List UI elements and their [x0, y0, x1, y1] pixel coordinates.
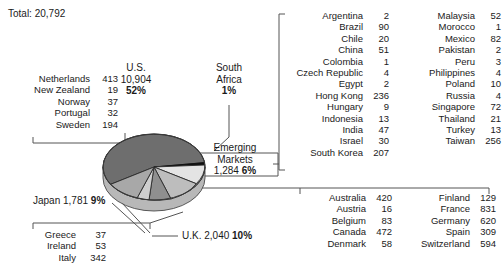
table-row: China51Pakistan2: [287, 44, 503, 55]
page-title: Total: 20,792: [8, 8, 65, 19]
cell-value: 4: [477, 90, 503, 101]
list-southern-europe-body: Greece37Ireland53Italy342: [22, 229, 108, 263]
cell-country: Denmark: [302, 238, 368, 249]
cell-value: 4: [365, 67, 399, 78]
table-row: Indonesia13Thailand21: [287, 113, 503, 124]
cell-value: 194: [92, 119, 120, 130]
cell-country: Brazil: [287, 21, 365, 32]
cell-value: 4: [477, 67, 503, 78]
cell-country: South Korea: [287, 147, 365, 158]
pie-chart: [103, 134, 205, 211]
cell-value: 37: [92, 96, 120, 107]
cell-value: 58: [368, 238, 406, 249]
callout-japan: Japan 1,781 9%: [33, 195, 105, 206]
cell-value: 2: [477, 44, 503, 55]
cell-value: 52: [477, 10, 503, 21]
table-row: Argentina2Malaysia52: [287, 10, 503, 21]
cell-country: Switzerland: [406, 238, 472, 249]
table-row: Ireland53: [22, 240, 108, 251]
cell-country: India: [287, 124, 365, 135]
table-developed-markets: Australia420Finland129Austria16France831…: [302, 192, 498, 249]
cell-country: Philippines: [399, 67, 477, 78]
cell-value: 309: [472, 226, 498, 237]
cell-country: Thailand: [399, 113, 477, 124]
cell-country: Israel: [287, 135, 365, 146]
cell-country: New Zealand: [12, 84, 92, 95]
list-southern-europe: Greece37Ireland53Italy342: [22, 229, 108, 263]
cell-country: Australia: [302, 192, 368, 203]
table-row: Italy342: [22, 252, 108, 263]
cell-value: 420: [368, 192, 406, 203]
cell-value: 13: [477, 124, 503, 135]
cell-value: 82: [477, 33, 503, 44]
cell-country: Canada: [302, 226, 368, 237]
cell-country: Finland: [406, 192, 472, 203]
cell-country: Chile: [287, 33, 365, 44]
cell-country: Indonesia: [287, 113, 365, 124]
table-row: Israel30Taiwan256: [287, 135, 503, 146]
table-row: Australia420Finland129: [302, 192, 498, 203]
cell-value: [477, 147, 503, 158]
cell-value: 413: [92, 73, 120, 84]
cell-country: Portugal: [12, 107, 92, 118]
cell-country: Pakistan: [399, 44, 477, 55]
table-row: Hungary9Singapore72: [287, 101, 503, 112]
cell-country: Netherlands: [12, 73, 92, 84]
callout-uk-percent: 10%: [232, 230, 252, 241]
table-row: Egypt2Poland10: [287, 78, 503, 89]
table-row: Greece37: [22, 229, 108, 240]
table-row: Canada472Spain309: [302, 226, 498, 237]
cell-value: 72: [477, 101, 503, 112]
callout-south-africa-percent: 1%: [199, 85, 259, 97]
cell-country: Colombia: [287, 56, 365, 67]
table-row: Norway37: [12, 96, 120, 107]
cell-country: France: [406, 203, 472, 214]
cell-value: 129: [472, 192, 498, 203]
cell-value: 90: [365, 21, 399, 32]
cell-value: 9: [365, 101, 399, 112]
callout-emerging-line2: Markets: [196, 154, 274, 166]
cell-country: Germany: [406, 215, 472, 226]
list-nordics-body: Netherlands413New Zealand19Norway37Portu…: [12, 73, 120, 130]
callout-south-africa-line1: South: [199, 62, 259, 74]
cell-country: Egypt: [287, 78, 365, 89]
cell-value: 2: [365, 10, 399, 21]
cell-country: Malaysia: [399, 10, 477, 21]
cell-country: Morocco: [399, 21, 477, 32]
cell-value: 1: [365, 56, 399, 67]
callout-emerging-value: 1,284: [214, 165, 239, 176]
callout-south-africa: South Africa 1%: [199, 62, 259, 97]
callout-emerging-markets: Emerging Markets 1,284 6%: [196, 142, 274, 177]
cell-value: 19: [92, 84, 120, 95]
cell-value: 37: [78, 229, 108, 240]
table-row: Sweden194: [12, 119, 120, 130]
cell-value: 342: [78, 252, 108, 263]
callout-emerging-line3: 1,284 6%: [196, 165, 274, 177]
callout-uk: U.K. 2,040 10%: [182, 230, 252, 241]
cell-value: 16: [368, 203, 406, 214]
table-row: Hong Kong236Russia4: [287, 90, 503, 101]
cell-value: 256: [477, 135, 503, 146]
cell-country: China: [287, 44, 365, 55]
table-emerging-markets: Argentina2Malaysia52Brazil90Morocco1Chil…: [287, 10, 503, 158]
cell-value: 20: [365, 33, 399, 44]
table-row: Austria16France831: [302, 203, 498, 214]
table-row: Belgium83Germany620: [302, 215, 498, 226]
cell-value: 21: [477, 113, 503, 124]
table-row: Czech Republic4Philippines4: [287, 67, 503, 78]
cell-value: 207: [365, 147, 399, 158]
cell-country: Sweden: [12, 119, 92, 130]
cell-country: Argentina: [287, 10, 365, 21]
cell-value: 236: [365, 90, 399, 101]
callout-south-africa-line2: Africa: [199, 74, 259, 86]
table-row: Chile20Mexico82: [287, 33, 503, 44]
callout-japan-percent: 9%: [91, 195, 105, 206]
cell-country: Poland: [399, 78, 477, 89]
cell-country: Belgium: [302, 215, 368, 226]
cell-value: 472: [368, 226, 406, 237]
table-row: Brazil90Morocco1: [287, 21, 503, 32]
table-row: New Zealand19: [12, 84, 120, 95]
cell-country: Turkey: [399, 124, 477, 135]
list-nordics-benelux: Netherlands413New Zealand19Norway37Portu…: [12, 73, 120, 130]
